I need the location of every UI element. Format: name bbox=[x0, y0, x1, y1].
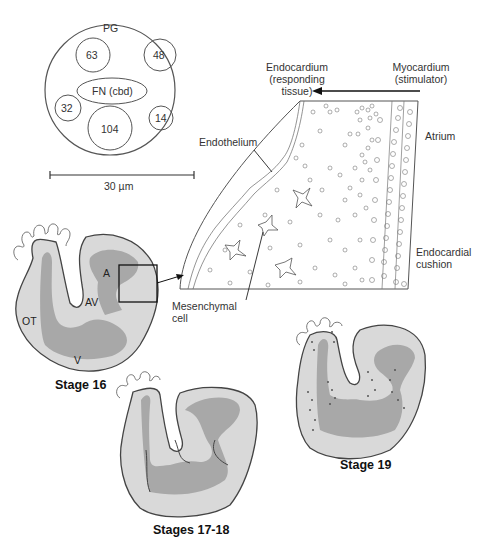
heart-stage-19 bbox=[296, 318, 425, 459]
particle-14: 14 bbox=[155, 112, 167, 124]
particle-104: 104 bbox=[101, 123, 119, 135]
particle-32: 32 bbox=[61, 102, 73, 114]
pg-label: PG bbox=[103, 22, 118, 34]
outflow-tract-label: OT bbox=[22, 315, 37, 327]
endothelium-label: Endothelium bbox=[199, 136, 257, 148]
tissue-section bbox=[180, 101, 418, 300]
stage-17-18-title: Stages 17-18 bbox=[153, 523, 229, 537]
scale-bar bbox=[50, 171, 194, 179]
stage-19-title: Stage 19 bbox=[340, 458, 391, 472]
endocardial-cushion-label: Endocardial cushion bbox=[416, 246, 471, 270]
heart-stage-17-18 bbox=[117, 372, 257, 517]
mesenchymal-cell-label: Mesenchymal cell bbox=[172, 300, 237, 324]
atrium-a-label: A bbox=[103, 267, 110, 279]
atrium-label: Atrium bbox=[425, 130, 455, 142]
heart-stage-16 bbox=[14, 224, 184, 371]
particle-63: 63 bbox=[86, 49, 98, 61]
av-canal-label: AV bbox=[85, 296, 98, 308]
stage-16-title: Stage 16 bbox=[55, 378, 106, 392]
scale-bar-label: 30 µm bbox=[104, 180, 133, 192]
endocardium-label: Endocardium (responding tissue) bbox=[252, 61, 342, 97]
particle-48: 48 bbox=[153, 49, 165, 61]
fn-cbd-label: FN (cbd) bbox=[92, 85, 133, 97]
ventricle-label: V bbox=[74, 354, 81, 366]
myocardium-label: Myocardium (stimulator) bbox=[376, 61, 466, 85]
